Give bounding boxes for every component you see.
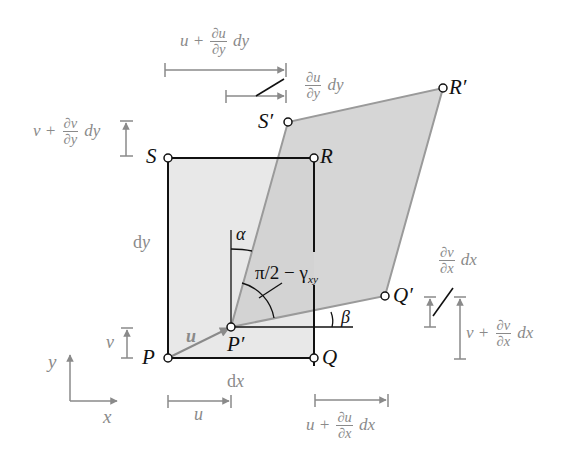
label-beta: β: [341, 308, 350, 326]
axis-label-y: y: [48, 352, 56, 371]
label-angle-gamma: π/2 − γxy: [255, 263, 318, 285]
prefix: u +: [180, 31, 204, 50]
vertex-P-prime: [227, 323, 235, 331]
vertex-Q: [310, 354, 318, 362]
fraction: ∂v∂x: [496, 318, 512, 349]
vertex-S-prime: [284, 118, 292, 126]
annotation-bottom-right: u + ∂u∂x dx: [306, 410, 375, 441]
annotation-top-short: ∂u∂y dy: [303, 70, 344, 101]
label-Q: Q: [322, 347, 337, 368]
label-v: v: [106, 333, 114, 351]
angle-text: π/2 − γ: [255, 262, 308, 283]
label-P-prime: P′: [227, 334, 244, 355]
denominator: ∂x: [440, 261, 454, 276]
fraction: ∂u∂y: [210, 26, 226, 57]
label-u: u: [194, 405, 203, 423]
vertex-P: [164, 354, 172, 362]
label-alpha: α: [236, 225, 245, 243]
prefix: v +: [466, 323, 489, 342]
label-dx: dx: [227, 372, 244, 390]
suffix: dx: [359, 415, 375, 434]
deformation-diagram: [0, 0, 573, 461]
denominator: ∂y: [212, 42, 226, 57]
label-u-vector: u: [186, 327, 196, 345]
label-P: P: [142, 347, 155, 368]
label-S: S: [146, 146, 157, 167]
numerator: ∂v: [63, 116, 79, 132]
label-dy: dy: [133, 233, 150, 251]
numerator: ∂v: [439, 245, 455, 261]
angle-subscript: xy: [308, 273, 318, 285]
denominator: ∂y: [306, 86, 320, 101]
label-S-prime: S′: [258, 111, 273, 132]
annotation-right-long: v + ∂v∂x dx: [466, 318, 533, 349]
numerator: ∂u: [305, 70, 321, 86]
annotation-top-long: u + ∂u∂y dy: [180, 26, 249, 57]
vertex-R-prime: [439, 84, 447, 92]
numerator: ∂u: [210, 26, 226, 42]
denominator: ∂x: [338, 426, 352, 441]
label-R: R: [320, 146, 333, 167]
suffix: dx: [461, 250, 477, 269]
fraction: ∂v∂x: [439, 245, 455, 276]
numerator: ∂v: [496, 318, 512, 334]
suffix: dy: [328, 75, 344, 94]
vertex-S: [164, 154, 172, 162]
numerator: ∂u: [336, 410, 352, 426]
fraction: ∂u∂y: [305, 70, 321, 101]
annotation-right-short: ∂v∂x dx: [437, 245, 477, 276]
suffix: dx: [517, 323, 533, 342]
prefix: u +: [306, 415, 330, 434]
prefix: v +: [33, 121, 56, 140]
fraction: ∂v∂y: [63, 116, 79, 147]
axis-label-x: x: [103, 407, 111, 426]
label-R-prime: R′: [449, 77, 466, 98]
fraction: ∂u∂x: [336, 410, 352, 441]
label-dx-x: x: [236, 371, 244, 391]
label-dy-y: y: [142, 232, 150, 252]
denominator: ∂x: [497, 334, 511, 349]
suffix: dy: [233, 31, 249, 50]
vertex-R: [310, 154, 318, 162]
label-Q-prime: Q′: [393, 285, 413, 306]
annotation-left-top: v + ∂v∂y dy: [33, 116, 100, 147]
suffix: dy: [84, 121, 100, 140]
denominator: ∂y: [64, 132, 78, 147]
vertex-Q-prime: [381, 292, 389, 300]
